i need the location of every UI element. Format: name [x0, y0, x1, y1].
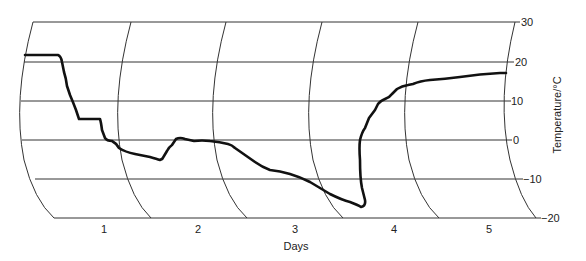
y-tick-30: 30 — [521, 16, 533, 28]
day-arc-1 — [118, 22, 151, 218]
x-tick-4: 4 — [391, 223, 397, 235]
x-tick-5: 5 — [486, 223, 492, 235]
y-axis-title: Temperature/°C — [551, 76, 563, 153]
x-tick-3: 3 — [292, 223, 298, 235]
y-tick-0: 0 — [513, 134, 519, 146]
left-boundary-arc — [20, 22, 54, 218]
day-arc-2 — [213, 22, 247, 218]
day-arc-4 — [405, 22, 439, 218]
y-tick-minus20: −20 — [541, 212, 560, 224]
y-tick-20: 20 — [515, 56, 527, 68]
day-arc-3 — [309, 22, 343, 218]
temperature-chart: 30 20 10 0 −10 −20 Temperature/°C 1 2 3 … — [0, 0, 586, 261]
temperature-curve — [25, 55, 506, 207]
y-tick-minus10: −10 — [523, 173, 542, 185]
x-tick-labels: 1 2 3 4 5 — [101, 223, 492, 235]
x-tick-1: 1 — [101, 223, 107, 235]
y-tick-10: 10 — [511, 95, 523, 107]
y-axis-ticks — [506, 22, 541, 218]
x-axis-title: Days — [283, 240, 309, 252]
right-boundary-arc — [504, 22, 536, 218]
x-tick-2: 2 — [195, 223, 201, 235]
